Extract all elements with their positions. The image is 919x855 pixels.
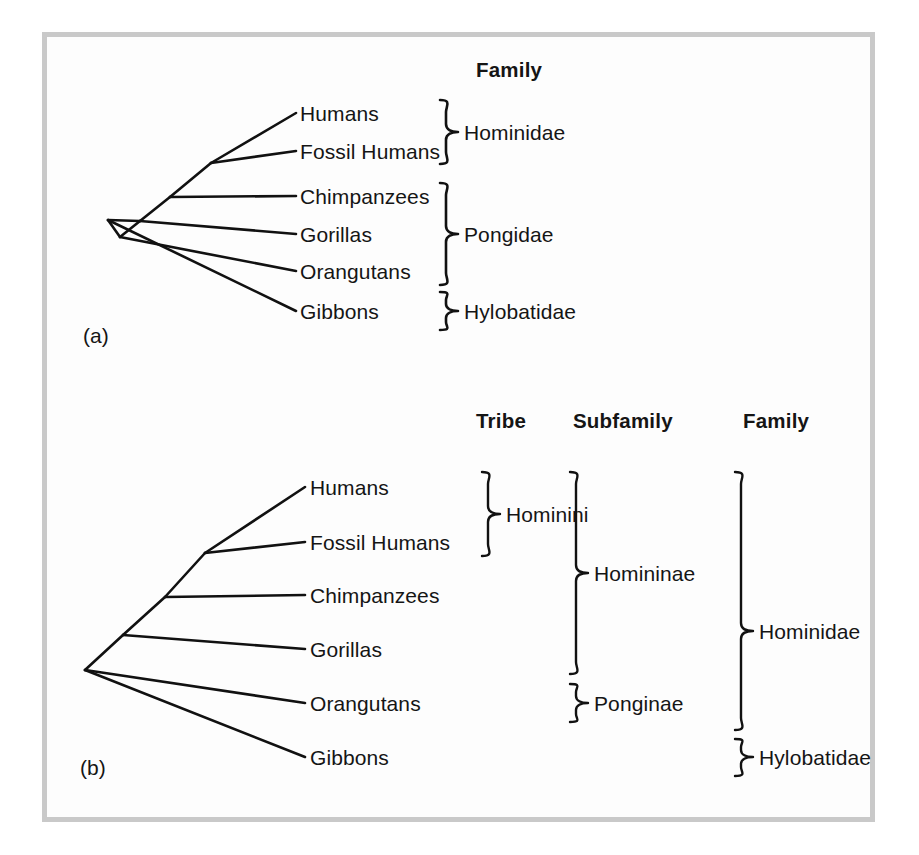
panel-b-subfamily-ponginae: Ponginae	[594, 693, 684, 714]
panel-b-caption: (b)	[80, 757, 106, 778]
panel-b-heading-tribe: Tribe	[476, 411, 526, 432]
panel-b-taxon-gibbons: Gibbons	[310, 747, 389, 768]
panel-b-tribe-hominini: Hominini	[506, 504, 589, 525]
panel-b-heading-subfamily: Subfamily	[573, 411, 673, 432]
panel-b-taxon-fossil-humans: Fossil Humans	[310, 532, 450, 553]
panel-b: Tribe Subfamily Family Humans Fossil Hum…	[0, 0, 919, 855]
panel-b-taxon-gorillas: Gorillas	[310, 639, 382, 660]
panel-b-taxon-humans: Humans	[310, 477, 389, 498]
panel-b-taxon-chimpanzees: Chimpanzees	[310, 585, 440, 606]
panel-b-family-hylobatidae: Hylobatidae	[759, 747, 871, 768]
panel-b-subfamily-homininae: Homininae	[594, 563, 695, 584]
panel-b-heading-family: Family	[743, 411, 809, 432]
panel-b-family-hominidae: Hominidae	[759, 621, 860, 642]
panel-b-taxon-orangutans: Orangutans	[310, 693, 421, 714]
figure-canvas: Family Humans Fossil Humans Chimpanzees …	[0, 0, 919, 855]
